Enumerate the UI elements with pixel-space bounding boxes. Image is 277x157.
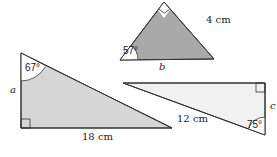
side-label-12cm: 12 cm bbox=[177, 114, 208, 124]
diagram-canvas: 4 cm 57° b 67° a 18 cm 12 cm 75° c bbox=[0, 0, 277, 157]
triangles-figure bbox=[0, 0, 277, 157]
angle-label-67: 67° bbox=[25, 63, 40, 73]
angle-label-75: 75° bbox=[247, 120, 262, 130]
unknown-side-b: b bbox=[159, 62, 165, 72]
side-label-4cm: 4 cm bbox=[206, 15, 231, 25]
side-label-18cm: 18 cm bbox=[82, 132, 113, 142]
unknown-side-a: a bbox=[10, 85, 16, 95]
unknown-side-c: c bbox=[270, 101, 276, 111]
angle-label-57: 57° bbox=[123, 46, 138, 56]
